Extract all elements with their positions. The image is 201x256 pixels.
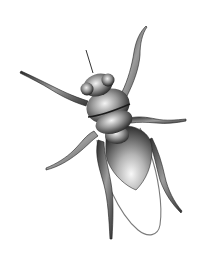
left-middle-leg [46, 131, 98, 170]
right-eye [102, 74, 115, 87]
left-front-leg [20, 71, 88, 106]
left-eye [81, 83, 94, 96]
antenna [86, 50, 93, 73]
right-middle-leg [130, 117, 186, 123]
fly-svg [0, 0, 201, 256]
right-hind-leg [148, 138, 182, 213]
right-front-leg [122, 26, 147, 96]
fly-illustration: fly [0, 0, 201, 256]
